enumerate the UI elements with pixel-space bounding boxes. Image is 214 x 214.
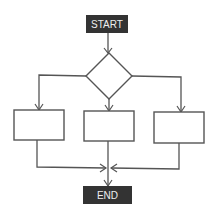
start-label: START xyxy=(91,19,123,30)
edge-decision-to-left xyxy=(35,75,86,110)
edge-decision-to-middle xyxy=(105,99,113,111)
process-box-right xyxy=(154,112,204,143)
edge-middle-to-end xyxy=(104,141,112,186)
flowchart-canvas: START E xyxy=(0,0,214,214)
process-box-left xyxy=(14,110,64,140)
end-node: END xyxy=(83,186,132,204)
end-label: END xyxy=(97,190,118,201)
edge-decision-to-right xyxy=(132,76,185,112)
start-node: START xyxy=(86,15,128,33)
edge-right-to-end xyxy=(111,143,179,172)
edge-left-to-end xyxy=(37,140,106,172)
edge-start-to-decision xyxy=(104,33,112,53)
process-box-middle xyxy=(84,111,134,141)
decision-diamond xyxy=(86,53,132,99)
